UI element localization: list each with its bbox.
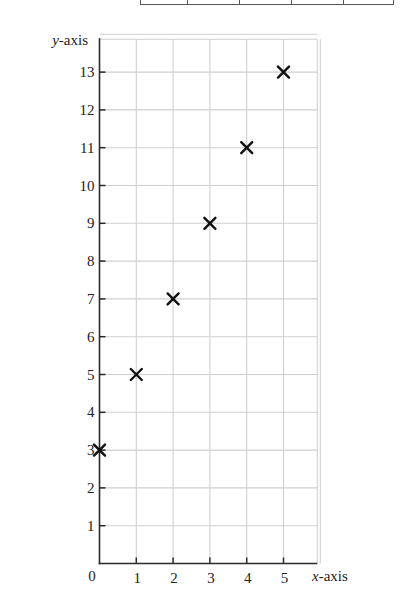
- y-tick-label: 6: [87, 329, 95, 345]
- grid-lines: [100, 34, 321, 563]
- y-axis-label-var: y: [50, 32, 59, 48]
- y-tick-label: 1: [87, 518, 95, 534]
- y-axis-label: y-axis: [50, 32, 88, 48]
- x-tick-label: 3: [207, 570, 215, 586]
- y-tick-label: 9: [87, 215, 95, 231]
- x-tick-label: 5: [281, 570, 289, 586]
- axes: [99, 38, 318, 564]
- scatter-chart: 12345678910111213 12345 0 y-axis x-axis: [0, 0, 401, 616]
- y-tick-label: 4: [87, 404, 95, 420]
- x-tick-label: 1: [134, 570, 142, 586]
- y-axis-label-rest: -axis: [59, 32, 88, 48]
- y-tick-label: 5: [87, 367, 95, 383]
- x-tick-label: 4: [244, 570, 252, 586]
- y-tick-label: 7: [87, 291, 95, 307]
- y-tick-label: 12: [80, 102, 95, 118]
- y-tick-label: 10: [80, 178, 95, 194]
- y-tick-label: 13: [80, 64, 95, 80]
- y-tick-label: 8: [87, 253, 95, 269]
- x-axis-label-rest: -axis: [319, 568, 348, 584]
- y-tick-label: 11: [80, 140, 94, 156]
- y-tick-labels: 12345678910111213: [80, 64, 96, 534]
- tick-marks: [100, 72, 284, 563]
- x-tick-labels: 12345: [134, 570, 289, 586]
- origin-label: 0: [88, 568, 96, 584]
- y-tick-label: 2: [87, 480, 95, 496]
- x-tick-label: 2: [170, 570, 178, 586]
- x-axis-label: x-axis: [311, 568, 348, 584]
